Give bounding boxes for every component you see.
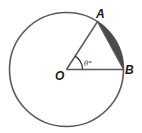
chord-ab — [98, 22, 124, 70]
label-a: A — [95, 7, 105, 21]
label-b: B — [125, 63, 134, 77]
circle-diagram: O A B θ° — [0, 0, 142, 133]
label-theta: θ° — [84, 60, 92, 68]
angle-arc — [75, 56, 82, 69]
radius-oa — [67, 22, 98, 70]
label-o: O — [55, 69, 65, 83]
